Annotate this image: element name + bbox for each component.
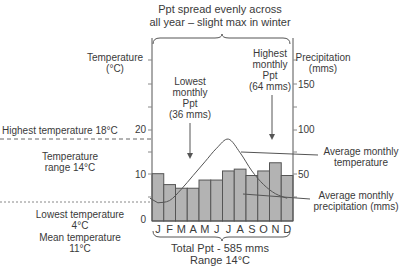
temp-range-label-2: range 14°C <box>20 162 120 173</box>
lowest-ppt-label-1: Lowest <box>165 76 215 87</box>
highest-ppt-label-2: monthly <box>245 59 295 70</box>
top-brace <box>153 34 290 44</box>
highest-ppt-label-1: Highest <box>245 48 295 59</box>
precipitation-bar <box>211 180 223 221</box>
precipitation-bar <box>152 174 164 221</box>
avg-temp-label-1: Average monthly <box>318 146 404 157</box>
right-axis-label-1: Precipitation <box>293 52 353 63</box>
right-axis-label-2: (mms) <box>293 63 353 74</box>
highest-temp-label: Highest temperature 18°C <box>2 125 130 136</box>
month-label: S <box>246 224 258 235</box>
left-axis-label-2: (°C) <box>80 63 150 74</box>
right-tick-100: 100 <box>298 124 318 135</box>
lowest-ppt-label-3: Ppt <box>165 98 215 109</box>
month-label: M <box>199 224 211 235</box>
precipitation-bar <box>187 188 199 221</box>
mean-temp-label-1: Mean temperature <box>30 232 130 243</box>
month-label: O <box>258 224 270 235</box>
chart-title-line2: all year – slight max in winter <box>140 17 300 28</box>
total-ppt-label: Total Ppt - 585 mms <box>165 243 275 254</box>
left-tick-0: 0 <box>130 214 146 225</box>
avg-ppt-label-1: Average monthly <box>308 190 404 201</box>
highest-ppt-label-3: Ppt <box>245 70 295 81</box>
month-label: M <box>176 224 188 235</box>
lowest-ppt-label-2: monthly <box>165 87 215 98</box>
month-label: F <box>164 224 176 235</box>
avg-temp-label-2: temperature <box>318 157 404 168</box>
precipitation-bar <box>223 171 235 221</box>
month-label: J <box>211 224 223 235</box>
month-label: J <box>152 224 164 235</box>
highest-ppt-arrowhead <box>269 134 275 140</box>
left-axis-label-1: Temperature <box>80 52 150 63</box>
left-ticks <box>148 60 152 197</box>
month-label: D <box>281 224 293 235</box>
right-tick-50: 50 <box>298 169 318 180</box>
precipitation-bar <box>246 176 258 222</box>
mean-temp-label-2: 11°C <box>30 243 130 254</box>
month-label: J <box>223 224 235 235</box>
left-tick-10: 10 <box>130 169 146 180</box>
right-tick-150: 150 <box>298 79 318 90</box>
chart-title-line1: Ppt spread evenly across <box>140 4 300 15</box>
month-label: N <box>270 224 282 235</box>
precipitation-bar <box>234 169 246 221</box>
temp-range-label-1: Temperature <box>20 151 120 162</box>
lowest-temp-label-1: Lowest temperature <box>30 209 130 220</box>
lowest-ppt-arrowhead <box>187 153 193 159</box>
lowest-temp-label-2: 4°C <box>30 220 130 231</box>
precipitation-bar <box>199 180 211 221</box>
month-label: A <box>234 224 246 235</box>
left-tick-20: 20 <box>130 124 146 135</box>
range-label: Range 14°C <box>165 255 275 266</box>
lowest-ppt-label-4: (36 mms) <box>165 109 215 120</box>
precipitation-bar <box>270 163 282 221</box>
temp-leader <box>241 152 318 155</box>
avg-ppt-label-2: precipitation (mms) <box>308 201 404 212</box>
highest-ppt-label-4: (64 mms) <box>245 81 295 92</box>
precipitation-bar <box>164 185 176 221</box>
month-label: A <box>187 224 199 235</box>
